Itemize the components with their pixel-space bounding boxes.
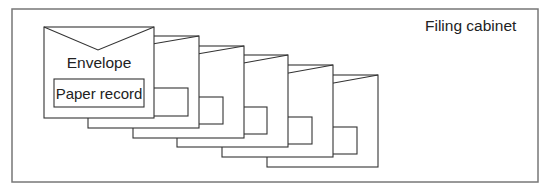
- filing-cabinet-diagram: Filing cabinet Envelope Paper record: [0, 0, 547, 186]
- envelope-label: Envelope: [67, 54, 132, 71]
- filing-cabinet-label: Filing cabinet: [425, 17, 517, 34]
- paper-record-label: Paper record: [56, 85, 143, 102]
- envelope-1: Envelope Paper record: [44, 27, 154, 118]
